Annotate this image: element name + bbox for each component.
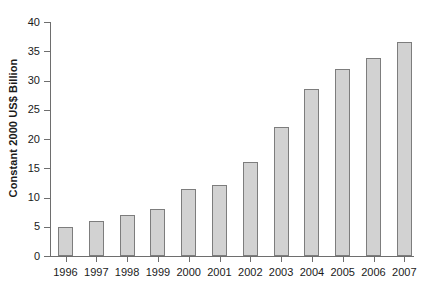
- bar-chart: Constant 2000 US$ Billion 05101520253035…: [0, 0, 424, 301]
- bar: [366, 58, 381, 256]
- x-axis-tick: [127, 257, 128, 262]
- bar: [181, 189, 196, 256]
- x-axis-tick-label: 2007: [384, 267, 424, 278]
- y-axis-tick-label: 5: [10, 221, 40, 232]
- y-axis-title: Constant 2000 US$ Billion: [4, 0, 22, 256]
- y-axis-tick-label: 30: [10, 75, 40, 86]
- x-axis-tick: [250, 257, 251, 262]
- y-axis-tick-label: 20: [10, 134, 40, 145]
- y-axis-tick: [44, 256, 50, 257]
- x-axis-tick: [158, 257, 159, 262]
- bar: [150, 209, 165, 256]
- x-axis-tick: [404, 257, 405, 262]
- y-axis-tick-label: 40: [10, 17, 40, 28]
- y-axis-tick: [44, 110, 50, 111]
- y-axis-tick-label: 15: [10, 163, 40, 174]
- y-axis-line: [50, 22, 51, 256]
- x-axis-tick: [343, 257, 344, 262]
- x-axis-tick: [374, 257, 375, 262]
- bar: [89, 221, 104, 256]
- y-axis-tick: [44, 198, 50, 199]
- bar: [120, 215, 135, 256]
- x-axis-tick: [66, 257, 67, 262]
- bar: [243, 162, 258, 256]
- y-axis-tick: [44, 227, 50, 228]
- y-axis-tick: [44, 51, 50, 52]
- y-axis-tick: [44, 81, 50, 82]
- x-axis-tick: [281, 257, 282, 262]
- y-axis-tick: [44, 22, 50, 23]
- bar: [335, 69, 350, 256]
- y-axis-tick-label: 35: [10, 46, 40, 57]
- x-axis-tick: [96, 257, 97, 262]
- y-axis-tick-label: 0: [10, 251, 40, 262]
- y-axis-tick-label: 25: [10, 104, 40, 115]
- x-axis-tick: [312, 257, 313, 262]
- bar: [304, 89, 319, 256]
- x-axis-tick: [189, 257, 190, 262]
- y-axis-tick: [44, 168, 50, 169]
- bar: [397, 42, 412, 256]
- bar: [58, 227, 73, 256]
- x-axis-tick: [220, 257, 221, 262]
- bar: [274, 127, 289, 256]
- y-axis-tick: [44, 139, 50, 140]
- y-axis-tick-label: 10: [10, 192, 40, 203]
- x-axis-line: [50, 256, 414, 257]
- bar: [212, 185, 227, 256]
